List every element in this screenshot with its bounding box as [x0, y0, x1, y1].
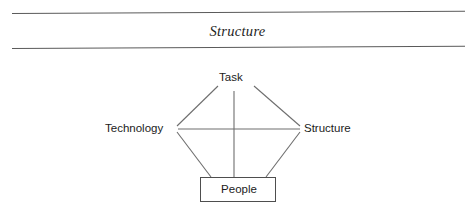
header-rule-top: [12, 11, 465, 14]
figure-page: Structure Task Technology Structure: [0, 0, 475, 218]
edge-task-structure: [254, 86, 300, 126]
node-task: Task: [217, 71, 245, 84]
header-rule-bottom: [12, 46, 465, 49]
node-technology: Technology: [103, 122, 165, 135]
edge-task-technology: [177, 86, 218, 126]
diamond-diagram: Task Technology Structure People: [0, 56, 475, 218]
node-people-box: People: [200, 177, 276, 202]
section-header: Structure: [0, 0, 475, 56]
edge-structure-people: [266, 132, 300, 177]
edge-technology-people: [177, 132, 211, 177]
node-structure: Structure: [302, 122, 353, 135]
node-people: People: [201, 183, 277, 196]
page-title: Structure: [0, 23, 475, 40]
